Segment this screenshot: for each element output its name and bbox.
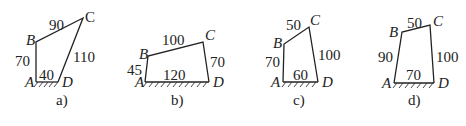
- vertex-d-D: D: [437, 75, 449, 91]
- caption-c: c): [293, 92, 305, 109]
- length-d-AD: 70: [406, 67, 421, 83]
- linkage-b: A B C D 45 100 70 120 b): [127, 27, 225, 109]
- length-a-AD: 40: [39, 67, 54, 83]
- vertex-c-D: D: [321, 74, 333, 90]
- length-b-CD: 70: [210, 54, 225, 70]
- length-c-AD: 60: [293, 67, 308, 83]
- length-c-AB: 70: [265, 54, 280, 70]
- linkage-a: A B C D 70 90 110 40 a): [15, 9, 95, 109]
- length-a-CD: 110: [73, 49, 95, 65]
- length-b-AB: 45: [127, 62, 142, 78]
- caption-a: a): [56, 92, 68, 109]
- length-d-AB: 90: [378, 49, 393, 65]
- vertex-c-A: A: [270, 74, 281, 90]
- length-c-BC: 50: [286, 17, 301, 33]
- caption-b: b): [171, 92, 184, 109]
- vertex-b-D: D: [212, 74, 224, 90]
- vertex-c-B: B: [273, 35, 282, 51]
- linkage-c: A B C D 70 50 100 60 c): [265, 12, 341, 109]
- length-b-AD: 120: [163, 67, 186, 83]
- length-a-AB: 70: [15, 53, 30, 69]
- vertex-d-A: A: [381, 75, 392, 91]
- vertex-c-C: C: [310, 12, 321, 28]
- length-a-BC: 90: [49, 17, 64, 33]
- linkage-d: A B C D 90 50 100 70 d): [378, 13, 459, 109]
- vertex-a-D: D: [61, 74, 73, 90]
- vertex-a-C: C: [85, 9, 95, 25]
- length-c-CD: 100: [318, 47, 341, 63]
- vertex-b-C: C: [205, 27, 216, 43]
- caption-d: d): [408, 92, 421, 109]
- linkage-d-ground-hatching: [393, 83, 433, 88]
- length-d-CD: 100: [436, 49, 459, 65]
- vertex-a-B: B: [26, 32, 35, 48]
- vertex-a-A: A: [24, 74, 35, 90]
- vertex-b-B: B: [139, 46, 148, 62]
- four-bar-linkages-figure: A B C D 70 90 110 40 a) A B C D 45 10: [0, 0, 466, 126]
- vertex-d-C: C: [433, 13, 444, 29]
- vertex-d-B: B: [389, 24, 398, 40]
- length-b-BC: 100: [162, 32, 185, 48]
- length-d-BC: 50: [407, 15, 422, 31]
